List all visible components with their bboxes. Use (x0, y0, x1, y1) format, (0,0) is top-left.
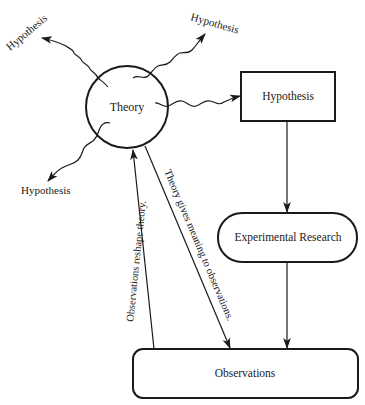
wavy-arrow-bottom-left (48, 123, 110, 181)
theory-label: Theory (110, 101, 145, 113)
hypothesis-label-bottom-left: Hypothesis (21, 185, 71, 196)
wavy-arrow-top-right (133, 34, 205, 78)
experimental-research-label: Experimental Research (235, 232, 342, 244)
observations-label: Observations (215, 368, 276, 380)
theory-research-diagram: Theory Hypothesis Experimental Research … (0, 0, 365, 405)
hypothesis-box-label: Hypothesis (262, 91, 314, 103)
wavy-arrow-top-left (42, 38, 108, 87)
arrow-theory-to-observations (145, 146, 230, 348)
